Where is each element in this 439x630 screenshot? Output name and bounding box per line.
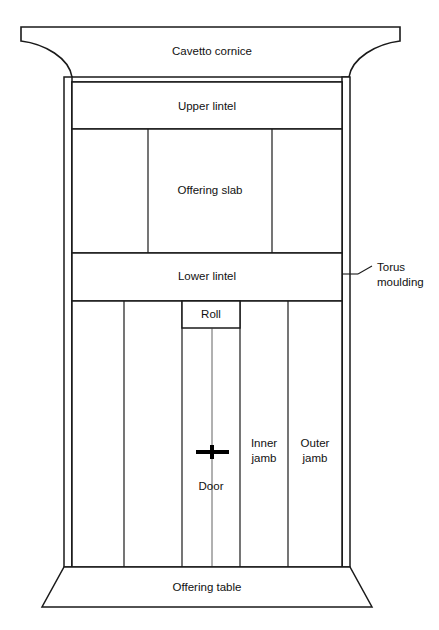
inner-jamb-label-line2: jamb — [251, 452, 277, 464]
false-door-diagram: Cavetto cornice Torus moulding Upper lin… — [0, 0, 439, 630]
cavetto-cornice-label: Cavetto cornice — [172, 45, 252, 57]
offering-table-label: Offering table — [173, 581, 242, 593]
torus-moulding-label-line1: Torus — [377, 261, 405, 273]
false-door-drawing: Cavetto cornice Torus moulding Upper lin… — [0, 0, 439, 630]
torus-moulding-left — [64, 77, 72, 567]
roll-label: Roll — [201, 308, 221, 320]
upper-lintel-label: Upper lintel — [178, 100, 236, 112]
torus-moulding-leader-elbow — [358, 266, 372, 274]
offering-slab-label: Offering slab — [178, 184, 243, 196]
outer-jamb-label-line1: Outer — [301, 437, 330, 449]
torus-moulding-label-line2: moulding — [377, 276, 424, 288]
door-label: Door — [199, 480, 224, 492]
jamb-region — [72, 301, 342, 567]
torus-moulding-right — [342, 77, 350, 567]
door-bolt-pin-icon — [210, 445, 214, 459]
inner-jamb-label-line1: Inner — [251, 437, 277, 449]
outer-jamb-label-line2: jamb — [302, 452, 328, 464]
lower-lintel-label: Lower lintel — [178, 270, 236, 282]
